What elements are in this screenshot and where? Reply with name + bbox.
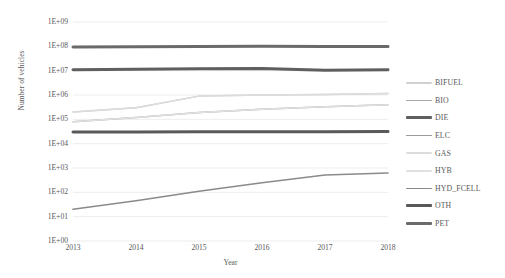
- legend-item-gas[interactable]: GAS: [406, 144, 505, 162]
- y-tick-label: 1E+03: [24, 164, 68, 172]
- x-axis-title: Year: [73, 258, 388, 267]
- chart-legend: BIFUELBIODIEELCGASHYBHYD_FCELLOTHPET: [406, 74, 505, 232]
- legend-label: BIFUEL: [435, 78, 463, 87]
- x-tick-label: 2013: [65, 243, 80, 252]
- legend-item-bifuel[interactable]: BIFUEL: [406, 74, 505, 92]
- series-line-hyd_fcell: [73, 173, 388, 209]
- legend-swatch-icon: [406, 152, 432, 154]
- y-tick-label: 1E+00: [24, 237, 68, 245]
- legend-swatch-icon: [406, 82, 432, 84]
- legend-item-elc[interactable]: ELC: [406, 127, 505, 145]
- legend-label: HYB: [435, 166, 452, 175]
- plot-area: [73, 22, 388, 241]
- legend-item-hyd_fcell[interactable]: HYD_FCELL: [406, 180, 505, 198]
- y-tick-label: 1E+07: [24, 67, 68, 75]
- legend-label: PET: [435, 219, 449, 228]
- series-line-pet: [73, 46, 388, 47]
- legend-swatch-icon: [406, 116, 432, 119]
- legend-label: DIE: [435, 113, 448, 122]
- legend-label: ELC: [435, 131, 450, 140]
- legend-swatch-icon: [406, 170, 432, 172]
- x-tick-label: 2017: [317, 243, 332, 252]
- y-tick-label: 1E+06: [24, 91, 68, 99]
- series-line-oth: [73, 132, 388, 133]
- y-tick-label: 1E+02: [24, 188, 68, 196]
- x-tick-label: 2015: [191, 243, 206, 252]
- legend-item-oth[interactable]: OTH: [406, 197, 505, 215]
- legend-swatch-icon: [406, 135, 432, 137]
- x-tick-label: 2016: [254, 243, 269, 252]
- series-line-gas: [73, 94, 388, 112]
- y-tick-label: 1E+05: [24, 115, 68, 123]
- y-tick-label: 1E+09: [24, 18, 68, 26]
- legend-label: BIO: [435, 96, 449, 105]
- legend-label: OTH: [435, 201, 451, 210]
- x-tick-label: 2014: [128, 243, 143, 252]
- series-line-die: [73, 68, 388, 70]
- legend-swatch-icon: [406, 222, 432, 225]
- x-tick-label: 2018: [380, 243, 395, 252]
- legend-item-hyb[interactable]: HYB: [406, 162, 505, 180]
- legend-swatch-icon: [406, 204, 432, 207]
- legend-swatch-icon: [406, 100, 432, 102]
- legend-label: HYD_FCELL: [435, 184, 481, 193]
- y-tick-label: 1E+08: [24, 42, 68, 50]
- y-axis-tick-labels: 1E+091E+081E+071E+061E+051E+041E+031E+02…: [24, 0, 68, 278]
- legend-item-die[interactable]: DIE: [406, 109, 505, 127]
- legend-swatch-icon: [406, 188, 432, 190]
- legend-item-bio[interactable]: BIO: [406, 92, 505, 110]
- legend-item-pet[interactable]: PET: [406, 215, 505, 233]
- y-tick-label: 1E+01: [24, 213, 68, 221]
- line-chart: Number of vehicles 1E+091E+081E+071E+061…: [0, 0, 505, 278]
- legend-label: GAS: [435, 149, 451, 158]
- y-tick-label: 1E+04: [24, 140, 68, 148]
- x-axis-tick-labels: 201320142015201620172018: [73, 243, 388, 257]
